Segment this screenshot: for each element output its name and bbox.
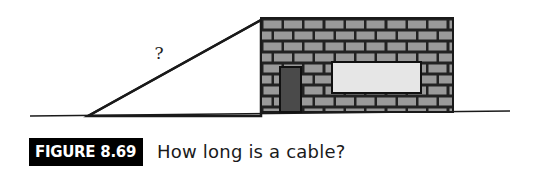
window	[332, 62, 421, 93]
figure-label: FIGURE 8.69	[29, 138, 143, 166]
figure-caption-text: How long is a cable?	[157, 142, 345, 162]
door	[280, 67, 301, 112]
unknown-length-label: ?	[154, 43, 163, 63]
cable-line	[88, 20, 261, 116]
figure-caption: FIGURE 8.69 How long is a cable?	[29, 137, 345, 167]
cable-diagram: ?	[0, 0, 540, 125]
